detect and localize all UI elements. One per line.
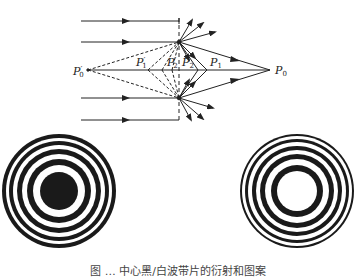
label-P2: P2 [181, 56, 194, 70]
label-P1: P1 [209, 56, 222, 70]
label-P0: P0 [274, 64, 287, 78]
label-P2-prime: P′2 [166, 55, 178, 70]
left-zone-plate [2, 134, 116, 248]
ray-diagram [81, 18, 270, 123]
label-P1-prime: P′1 [135, 55, 147, 70]
label-P0-prime: P′0 [72, 64, 84, 79]
figure-caption: 图 … 中心黑/白波带片的衍射和图案 [0, 262, 356, 278]
right-zone-plate [240, 134, 354, 248]
